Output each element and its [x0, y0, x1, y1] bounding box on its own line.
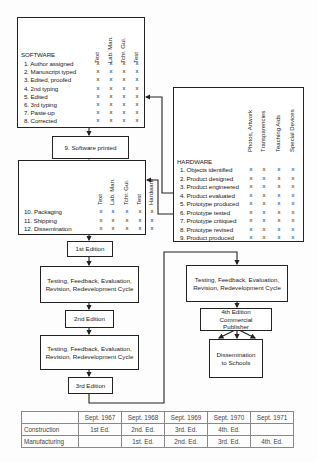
hw-mark: x	[248, 217, 254, 223]
hw-item-label: 6. Prototype tested	[180, 209, 230, 217]
hw-mark: x	[261, 217, 267, 223]
software-mark: x	[95, 68, 101, 74]
hw-col-teaching-aids: Teaching Aids	[275, 115, 281, 152]
dist-item-label: 11. Shipping	[24, 217, 57, 225]
schedule-header: Sept. 1969	[165, 412, 208, 424]
schedule-row-label: Construction	[22, 424, 79, 436]
hw-mark: x	[276, 226, 282, 232]
schedule-header: Sept. 1967	[79, 412, 122, 424]
schedule-cell: 3rd. Ed.	[165, 424, 208, 436]
software-col-lab-man: Lab. Man.	[107, 36, 113, 63]
software-box: SOFTWARE Text Lab. Man. Tchr. Gui. Test …	[17, 17, 145, 128]
dist-mark: x	[110, 225, 116, 231]
dist-col-lab-man: Lab. Man.	[109, 178, 115, 205]
dist-mark: x	[110, 217, 116, 223]
software-mark: x	[121, 101, 127, 107]
schedule-row-manufacturing: Manufacturing 1st. Ed. 2nd. Ed. 3rd. Ed.…	[22, 436, 294, 448]
hw-col-special-devices: Special Devices	[289, 109, 295, 152]
schedule-cell: 4th. Ed.	[208, 424, 251, 436]
software-mark: x	[134, 68, 140, 74]
software-mark: x	[121, 60, 127, 66]
hw-mark: x	[248, 166, 254, 172]
hw-mark: x	[290, 183, 296, 189]
cycle-label-1: Testing, Feedback, Evaluation, Revision,…	[45, 277, 134, 292]
schedule-cell: 1st. Ed.	[122, 436, 165, 448]
hw-item-label: 2. Product designed	[180, 175, 233, 183]
software-mark: x	[108, 93, 114, 99]
schedule-cell: 4th. Ed.	[251, 436, 294, 448]
hw-mark: x	[261, 192, 267, 198]
first-edition-label: 1st Edition	[76, 245, 105, 253]
hw-mark: x	[248, 226, 254, 232]
hw-item-label: 4. Product evaluated	[180, 192, 235, 200]
software-item-label: 5. Edited	[24, 93, 48, 101]
software-mark: x	[134, 93, 140, 99]
schedule-cell	[79, 436, 122, 448]
hw-mark: x	[276, 217, 282, 223]
second-edition-label: 2nd Edition	[74, 315, 105, 323]
software-mark: x	[121, 93, 127, 99]
hw-mark: x	[290, 200, 296, 206]
hw-mark: x	[290, 217, 296, 223]
hw-mark: x	[290, 175, 296, 181]
hw-mark: x	[261, 183, 267, 189]
dist-mark: x	[149, 208, 155, 214]
software-mark: x	[134, 117, 140, 123]
hw-mark: x	[261, 209, 267, 215]
dist-col-tchr-gui: Tchr. Gui.	[123, 180, 129, 205]
dist-mark: x	[149, 217, 155, 223]
cycle-label-3: Testing, Feedback, Evaluation, Revision,…	[191, 276, 283, 291]
software-printed-label: 9. Software printed	[65, 144, 117, 152]
schedule-header: Sept. 1968	[122, 412, 165, 424]
dist-item-label: 10. Packaging	[24, 208, 62, 216]
hw-mark: x	[248, 192, 254, 198]
software-mark: x	[121, 76, 127, 82]
third-edition-label: 3rd Edition	[76, 382, 106, 390]
schedule-row-label: Manufacturing	[22, 436, 79, 448]
hw-mark: x	[248, 175, 254, 181]
hw-mark: x	[248, 183, 254, 189]
schedule-header: Sept. 1971	[251, 412, 294, 424]
schedule-cell: 2nd. Ed.	[165, 436, 208, 448]
hw-item-label: 9. Product produced	[180, 234, 234, 242]
software-mark: x	[108, 76, 114, 82]
dist-col-hardware: Hardware	[148, 179, 154, 205]
software-item-label: 3. Edited, proofed	[24, 76, 71, 84]
hw-mark: x	[290, 209, 296, 215]
hw-mark: x	[276, 166, 282, 172]
software-item-label: 1. Author assigned	[24, 60, 73, 68]
hw-mark: x	[261, 166, 267, 172]
dist-mark: x	[124, 208, 130, 214]
hw-mark: x	[276, 209, 282, 215]
second-edition-box: 2nd Edition	[65, 310, 114, 328]
software-mark: x	[95, 101, 101, 107]
schedule-table: Sept. 1967 Sept. 1968 Sept. 1969 Sept. 1…	[21, 411, 294, 448]
dist-mark: x	[137, 217, 143, 223]
dissemination-box: Dissemination to Schools	[209, 339, 263, 378]
software-mark: x	[95, 60, 101, 66]
cycle-box-2: Testing, Feedback, Evaluation, Revision,…	[40, 335, 139, 370]
software-mark: x	[108, 85, 114, 91]
schedule-header-row: Sept. 1967 Sept. 1968 Sept. 1969 Sept. 1…	[22, 412, 294, 424]
software-mark: x	[134, 85, 140, 91]
software-mark: x	[108, 68, 114, 74]
hw-item-label: 3. Product engineered	[180, 183, 239, 191]
schedule-row-construction: Construction 1st Ed. 2nd. Ed. 3rd. Ed. 4…	[22, 424, 294, 436]
hw-item-label: 7. Prototype critiqued	[180, 217, 236, 225]
hw-item-label: 8. Prototype revised	[180, 226, 233, 234]
software-item-label: 2. Manuscript typed	[24, 68, 76, 76]
cycle-box-3: Testing, Feedback, Evaluation, Revision,…	[186, 265, 288, 302]
schedule-cell: 3rd. Ed.	[208, 436, 251, 448]
hw-mark: x	[276, 200, 282, 206]
fourth-edition-box: 4th Edition Commercial Publisher	[200, 308, 272, 331]
first-edition-box: 1st Edition	[67, 241, 113, 257]
hw-mark: x	[276, 234, 282, 240]
software-mark: x	[121, 117, 127, 123]
dist-mark: x	[110, 208, 116, 214]
software-printed-box: 9. Software printed	[52, 136, 129, 159]
hw-mark: x	[261, 234, 267, 240]
software-mark: x	[108, 117, 114, 123]
hw-col-transparencies: Transparencies	[260, 111, 266, 152]
software-mark: x	[134, 101, 140, 107]
dissemination-label: Dissemination to Schools	[216, 351, 256, 366]
